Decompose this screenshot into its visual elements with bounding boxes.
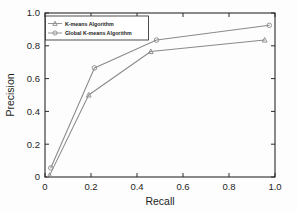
figure-canvas: 00.20.40.60.81.0 00.20.40.60.81.0 Recall… [0,0,297,213]
x-tick-label: 0.4 [130,181,143,192]
y-tick-label: 0.2 [27,139,40,150]
series-2 [48,23,271,170]
y-tick-label: 1.0 [27,7,40,18]
x-tick-label: 0.8 [222,181,235,192]
y-tick-label: 0.6 [27,73,40,84]
series-line [50,40,265,175]
chart-legend: K-means AlgorithmGlobal K-means Algorith… [46,16,149,40]
x-tick-label: 0 [42,181,47,192]
legend-label: Global K-means Algorithm [65,30,132,36]
data-series-layer [47,23,271,177]
x-tick-label: 0.6 [176,181,189,192]
x-axis-title: Recall [145,195,174,207]
y-tick-label: 0.4 [27,106,40,117]
x-axis-tick-labels: 00.20.40.60.81.0 [42,181,281,192]
y-axis-title: Precision [4,73,16,116]
y-tick-label: 0 [35,171,40,182]
series-1 [47,37,267,177]
x-tick-label: 1.0 [268,181,281,192]
y-tick-label: 0.8 [27,40,40,51]
x-tick-label: 0.2 [84,181,97,192]
precision-recall-chart: 00.20.40.60.81.0 00.20.40.60.81.0 Recall… [0,0,297,213]
series-line [51,25,270,168]
legend-label: K-means Algorithm [65,21,114,27]
y-axis-tick-labels: 00.20.40.60.81.0 [27,7,40,182]
